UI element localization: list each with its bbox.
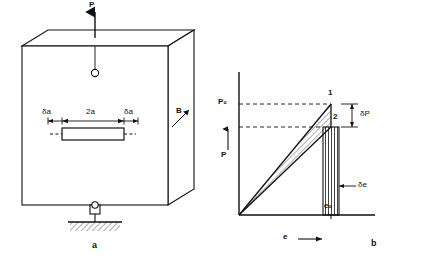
label-axis-e: e (283, 232, 287, 241)
label-delta-a-right: δa (124, 107, 133, 116)
label-delta-e: δe (358, 180, 367, 189)
sublabel-b: b (371, 238, 377, 248)
label-axis-p: P (221, 150, 226, 159)
label-crack-length-2a: 2a (86, 107, 95, 116)
panel-b-plot (228, 72, 375, 241)
figure-diagram (0, 0, 421, 274)
label-p-zero: P₀ (218, 97, 227, 106)
sublabel-a: a (92, 240, 97, 250)
panel-a-specimen (22, 12, 194, 231)
label-thickness-b: B (176, 106, 182, 115)
label-e-zero: e₀ (324, 201, 332, 210)
label-delta-a-left: δa (42, 107, 51, 116)
label-delta-p: δP (360, 109, 370, 118)
label-point-1: 1 (328, 88, 332, 97)
label-point-2: 2 (333, 112, 337, 121)
label-load-p-a: P (89, 0, 94, 9)
